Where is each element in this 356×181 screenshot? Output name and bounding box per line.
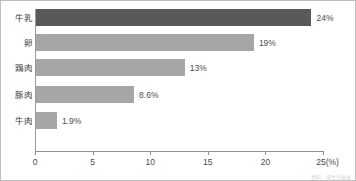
plot-area: 牛乳 卵 鶏肉 豚肉 牛肉 24% 19% 13% 8.6% 1.9% 0510… (1, 1, 356, 181)
category-label-2: 鶏肉 (1, 59, 33, 76)
category-label-0: 牛乳 (1, 9, 33, 26)
x-tick-label-25: 25(%) (316, 157, 339, 167)
x-tick-20 (265, 151, 266, 155)
bar-value-4: 1.9% (62, 112, 81, 129)
bar-0 (35, 9, 311, 26)
bar-value-1: 19% (259, 34, 276, 51)
y-axis-line (35, 9, 36, 151)
source-footnote: 資料：厚生労働省 (311, 174, 351, 180)
bar-1 (35, 34, 254, 51)
x-tick-25 (323, 151, 324, 155)
x-axis-line (35, 151, 323, 152)
category-label-text: 牛乳 (3, 13, 33, 23)
x-tick-0 (35, 151, 36, 155)
x-tick-5 (93, 151, 94, 155)
category-label-4: 牛肉 (1, 112, 33, 129)
x-tick-label-0: 0 (33, 157, 38, 167)
x-tick-15 (208, 151, 209, 155)
bar-value-2: 13% (190, 59, 207, 76)
bar-value-3: 8.6% (139, 86, 158, 103)
x-tick-label-10: 10 (145, 157, 154, 167)
category-label-text: 卵 (3, 38, 33, 48)
x-tick-label-15: 15 (203, 157, 212, 167)
category-label-1: 卵 (1, 34, 33, 51)
bar-4 (35, 112, 57, 129)
x-tick-label-5: 5 (90, 157, 95, 167)
category-label-text: 鶏肉 (3, 63, 33, 73)
chart-container: 牛乳 卵 鶏肉 豚肉 牛肉 24% 19% 13% 8.6% 1.9% 0510… (0, 0, 356, 181)
x-tick-10 (150, 151, 151, 155)
bar-2 (35, 59, 185, 76)
bar-3 (35, 86, 134, 103)
x-tick-label-20: 20 (261, 157, 270, 167)
category-label-text: 牛肉 (3, 116, 33, 126)
category-label-3: 豚肉 (1, 86, 33, 103)
category-label-text: 豚肉 (3, 90, 33, 100)
bar-value-0: 24% (316, 9, 333, 26)
